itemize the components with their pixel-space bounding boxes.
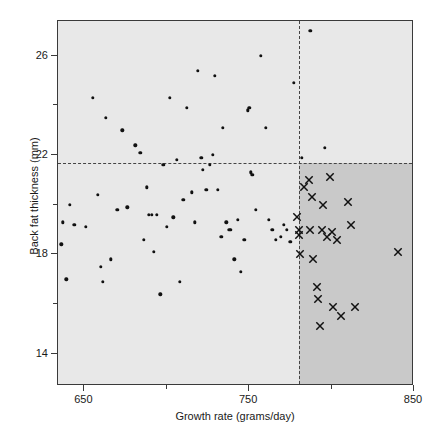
- data-point-dot: [323, 146, 326, 149]
- data-point-dot: [201, 168, 204, 171]
- data-point-dot: [109, 258, 112, 261]
- data-point-cross: [296, 250, 305, 259]
- data-point-dot: [251, 173, 254, 176]
- data-point-dot: [145, 186, 148, 189]
- x-axis-tick: [413, 385, 414, 391]
- data-point-dot: [224, 220, 227, 223]
- data-point-dot: [229, 228, 232, 231]
- data-point-cross: [312, 282, 321, 291]
- data-point-dot: [142, 238, 145, 241]
- data-point-cross: [304, 175, 313, 184]
- data-point-dot: [96, 193, 99, 196]
- data-point-dot: [91, 96, 94, 99]
- data-point-dot: [271, 228, 274, 231]
- data-point-dot: [205, 188, 208, 191]
- back-fat-threshold-line: [58, 163, 412, 164]
- data-point-dot: [65, 278, 68, 281]
- data-point-cross: [337, 312, 346, 321]
- x-axis-tick: [83, 385, 84, 391]
- data-point-dot: [274, 238, 277, 241]
- y-axis-tick-label: 18: [26, 247, 48, 259]
- data-point-dot: [152, 250, 155, 253]
- data-point-dot: [116, 208, 119, 211]
- data-point-dot: [236, 218, 239, 221]
- data-point-cross: [319, 200, 328, 209]
- data-point-dot: [193, 220, 196, 223]
- scatter-plot-figure: Back fat thickness (mm) Growth rate (gra…: [0, 0, 428, 440]
- data-point-dot: [175, 158, 178, 161]
- x-axis-tick-label: 850: [404, 393, 422, 405]
- data-point-cross: [292, 213, 301, 222]
- data-point-dot: [300, 156, 303, 159]
- y-axis-label: Back fat thickness (mm): [28, 76, 40, 316]
- data-point-cross: [393, 247, 402, 256]
- data-point-dot: [155, 213, 158, 216]
- data-point-dot: [267, 218, 270, 221]
- data-point-dot: [139, 151, 142, 154]
- data-point-dot: [247, 106, 250, 109]
- data-point-dot: [178, 280, 181, 283]
- data-point-dot: [279, 235, 282, 238]
- data-point-dot: [126, 206, 129, 209]
- data-point-dot: [150, 213, 153, 216]
- data-point-dot: [254, 208, 257, 211]
- data-point-dot: [158, 292, 161, 295]
- x-axis-minor-tick: [166, 385, 167, 389]
- data-point-dot: [165, 225, 168, 228]
- data-point-dot: [172, 215, 175, 218]
- data-point-cross: [350, 302, 359, 311]
- data-point-dot: [243, 238, 246, 241]
- data-point-dot: [285, 228, 288, 231]
- data-point-dot: [213, 74, 216, 77]
- data-point-cross: [347, 220, 356, 229]
- data-point-cross: [307, 193, 316, 202]
- data-point-dot: [190, 191, 193, 194]
- data-point-dot: [259, 54, 262, 57]
- data-point-cross: [332, 235, 341, 244]
- data-point-dot: [216, 188, 219, 191]
- data-point-dot: [168, 96, 171, 99]
- data-point-dot: [182, 198, 185, 201]
- x-axis-label: Growth rate (grams/day): [57, 410, 413, 422]
- data-point-dot: [162, 163, 165, 166]
- data-point-dot: [292, 81, 295, 84]
- x-axis-tick-label: 750: [239, 393, 257, 405]
- growth-rate-threshold-line: [299, 21, 300, 384]
- data-point-dot: [221, 126, 224, 129]
- data-point-cross: [329, 302, 338, 311]
- data-point-dot: [185, 106, 188, 109]
- x-axis-minor-tick: [331, 385, 332, 389]
- data-point-dot: [211, 153, 214, 156]
- y-axis-tick-label: 26: [26, 49, 48, 61]
- data-point-cross: [344, 198, 353, 207]
- data-point-dot: [99, 265, 102, 268]
- data-point-dot: [208, 163, 211, 166]
- plot-area: [57, 20, 413, 385]
- data-point-dot: [308, 29, 311, 32]
- data-point-cross: [309, 255, 318, 264]
- data-point-dot: [289, 240, 292, 243]
- data-point-cross: [325, 173, 334, 182]
- data-point-dot: [104, 116, 107, 119]
- x-axis-tick-label: 650: [74, 393, 92, 405]
- data-point-cross: [316, 322, 325, 331]
- data-point-dot: [219, 235, 222, 238]
- y-axis-tick-label: 22: [26, 148, 48, 160]
- data-point-dot: [60, 243, 63, 246]
- data-point-dot: [264, 126, 267, 129]
- data-point-dot: [239, 270, 242, 273]
- data-point-dot: [134, 143, 137, 146]
- data-point-dot: [73, 223, 76, 226]
- data-point-dot: [61, 220, 64, 223]
- x-axis-tick: [248, 385, 249, 391]
- data-point-dot: [84, 225, 87, 228]
- data-point-dot: [200, 156, 203, 159]
- data-point-dot: [101, 280, 104, 283]
- data-point-dot: [233, 258, 236, 261]
- data-point-dot: [282, 223, 285, 226]
- data-point-cross: [294, 230, 303, 239]
- data-point-cross: [314, 295, 323, 304]
- data-point-dot: [121, 129, 124, 132]
- data-point-dot: [68, 203, 71, 206]
- data-point-dot: [196, 69, 199, 72]
